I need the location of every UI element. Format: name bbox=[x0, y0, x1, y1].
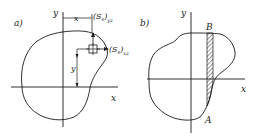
panel-a-dim-x-label: x bbox=[74, 14, 79, 23]
panel-a: a) y x x (Ss)yz (Ss)xz bbox=[11, 8, 129, 127]
arrow-down-icon bbox=[76, 83, 79, 87]
panel-b-hatched-strip bbox=[207, 33, 213, 106]
panel-b-section-outline bbox=[149, 33, 235, 120]
panel-b-point-b: B bbox=[205, 22, 213, 32]
diagram-canvas: a) y x x (Ss)yz (Ss)xz bbox=[0, 0, 253, 139]
panel-a-label: a) bbox=[14, 18, 23, 28]
panel-a-moment-yz: (Ss)yz bbox=[93, 12, 113, 24]
panel-a-x-axis-label: x bbox=[111, 93, 116, 103]
panel-b-y-axis-label: y bbox=[180, 8, 187, 18]
panel-a-dim-y-label: y bbox=[70, 64, 76, 73]
panel-b: b) y x B A bbox=[140, 8, 246, 133]
panel-b-x-axis-label: x bbox=[241, 84, 246, 94]
panel-a-y-axis-label: y bbox=[52, 8, 59, 18]
panel-b-label: b) bbox=[140, 18, 150, 28]
arrow-down-icon bbox=[76, 54, 79, 58]
panel-b-point-a: A bbox=[204, 115, 212, 125]
panel-a-section-outline bbox=[22, 31, 108, 120]
panel-a-moment-xz: (Ss)xz bbox=[109, 45, 129, 56]
